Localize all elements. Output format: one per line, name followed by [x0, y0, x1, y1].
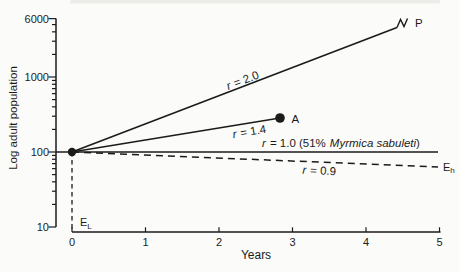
- population-growth-chart: 6000 1000 100 10 0 1 2 3 4 5 Years Log a…: [0, 0, 459, 272]
- label-eh: Eh: [443, 161, 455, 176]
- origin-point: [68, 148, 76, 156]
- scan-shadow: [70, 0, 440, 4]
- label-r-2-0: r= 2.0: [225, 69, 261, 92]
- x-tick-label-5: 5: [436, 236, 442, 248]
- figure-canvas: 6000 1000 100 10 0 1 2 3 4 5 Years Log a…: [0, 0, 459, 272]
- label-p: P: [415, 17, 423, 29]
- y-axis-ticks: [49, 19, 57, 227]
- x-tick-label-0: 0: [69, 236, 75, 248]
- x-tick-label-1: 1: [142, 236, 148, 248]
- x-tick-label-3: 3: [289, 236, 295, 248]
- y-tick-label-1000: 1000: [25, 71, 49, 83]
- label-el: EL: [80, 216, 92, 231]
- label-a: A: [292, 113, 300, 125]
- y-tick-label-100: 100: [31, 146, 49, 158]
- point-a: [275, 113, 285, 123]
- x-axis-title: Years: [241, 248, 271, 262]
- label-r-0-9: r= 0.9: [302, 164, 336, 177]
- y-axis-title: Log adult population: [7, 66, 19, 170]
- line-break-mark: [397, 19, 408, 28]
- x-tick-label-2: 2: [216, 236, 222, 248]
- line-r-0-9-dashed: [72, 152, 438, 167]
- label-r-1-0-myrmica: r= 1.0 (51%Myrmica sabuleti): [262, 137, 420, 149]
- y-tick-label-10: 10: [37, 221, 49, 233]
- y-tick-label-6000: 6000: [25, 13, 49, 25]
- x-tick-label-4: 4: [363, 236, 369, 248]
